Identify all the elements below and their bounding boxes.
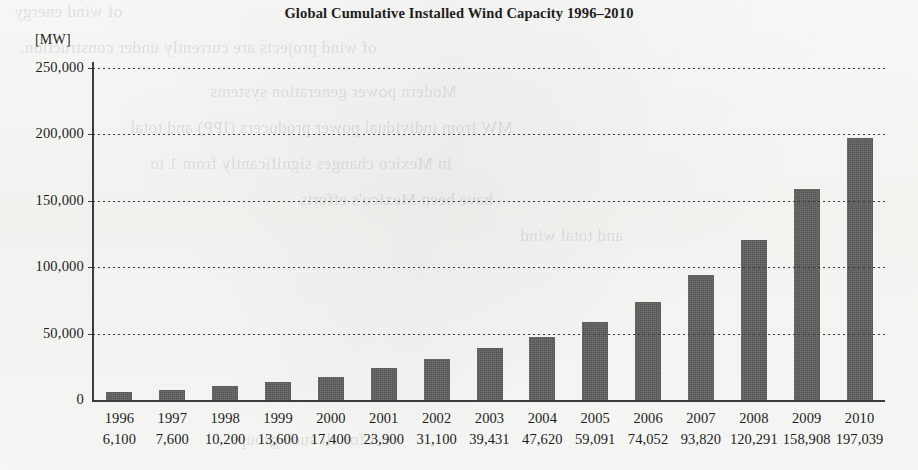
- bar: [424, 359, 450, 400]
- x-tick-group: 2010197,039: [825, 408, 895, 449]
- bar: [477, 348, 503, 400]
- y-tick-label: 200,000: [35, 126, 84, 143]
- scanned-chart-page: of wind energyof wind projects are curre…: [0, 0, 918, 470]
- bar: [318, 377, 344, 400]
- x-tick-year-label: 2010: [825, 408, 895, 429]
- bar: [635, 302, 661, 400]
- plot-area: 050,000100,000150,000200,000250,000: [93, 68, 886, 400]
- bar: [688, 275, 714, 400]
- bar: [106, 392, 132, 400]
- y-gridline: [93, 134, 886, 135]
- y-tick-label: 0: [77, 391, 84, 408]
- y-gridline: [93, 201, 886, 202]
- chart-title: Global Cumulative Installed Wind Capacit…: [0, 5, 918, 22]
- y-gridline: [93, 267, 886, 268]
- y-gridline: [93, 68, 886, 69]
- bar: [741, 240, 767, 400]
- bar: [212, 386, 238, 400]
- y-tick-label: 150,000: [35, 192, 84, 209]
- bar: [265, 382, 291, 400]
- y-gridline: [93, 334, 886, 335]
- bar: [794, 189, 820, 400]
- bar: [159, 390, 185, 400]
- bar: [371, 368, 397, 400]
- x-tick-value-label: 197,039: [825, 429, 895, 450]
- y-axis-unit-label: [MW]: [35, 32, 71, 48]
- y-tick-label: 50,000: [43, 325, 84, 342]
- x-axis-line: [92, 400, 885, 402]
- y-tick-label: 250,000: [35, 59, 84, 76]
- bar: [847, 138, 873, 400]
- bar: [529, 337, 555, 400]
- y-axis-line: [92, 62, 94, 402]
- bleed-through-line: of wind projects are currently under con…: [20, 38, 377, 58]
- y-tick-label: 100,000: [35, 258, 84, 275]
